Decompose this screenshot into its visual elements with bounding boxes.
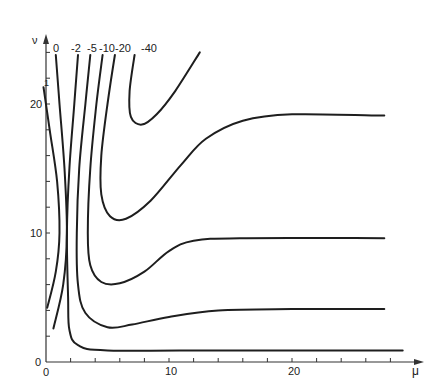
- x-tick-label-10: 10: [165, 365, 177, 377]
- contour-label: -2: [71, 42, 81, 54]
- x-tick-label-20: 20: [288, 365, 300, 377]
- axes: [43, 34, 424, 365]
- y-tick-label-10: 10: [30, 227, 42, 239]
- contour-curves: [44, 52, 403, 350]
- contour-line-minus-5: [77, 55, 385, 328]
- contour-label: -5: [87, 42, 97, 54]
- y-axis-arrow-icon: [43, 34, 49, 44]
- contour-line-minus-40: [129, 52, 200, 124]
- contour-line-minus-20: [100, 55, 384, 220]
- contour-label: 0: [53, 42, 59, 54]
- contour-label: 1: [44, 78, 49, 88]
- x-axis-label: μ: [412, 364, 419, 378]
- y-axis-label: ν: [32, 34, 38, 46]
- contour-line-0: [53, 55, 67, 329]
- x-tick-label-0: 0: [43, 366, 49, 378]
- contour-label: -20: [115, 42, 131, 54]
- contour-label: -40: [141, 42, 157, 54]
- y-tick-label-20: 20: [30, 98, 42, 110]
- contour-line-minus-10: [88, 55, 385, 284]
- contour-chart: μ ν 0 0 10 20 10 20 10-2-5-10-20-40: [0, 0, 447, 390]
- contour-line-minus-2: [67, 55, 403, 351]
- y-tick-label-0: 0: [35, 356, 41, 368]
- contour-label: -10: [99, 42, 115, 54]
